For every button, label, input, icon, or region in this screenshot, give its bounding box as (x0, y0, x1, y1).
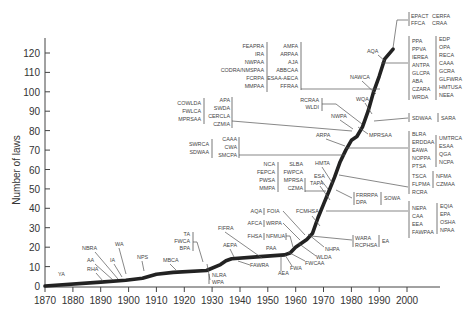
x-tick: 1920 (173, 295, 196, 306)
annotation-label: FFCA (411, 20, 425, 26)
y-tick: 30 (29, 223, 41, 234)
x-tick: 1950 (257, 295, 280, 306)
annotation-label: SDWAA (189, 149, 209, 155)
annotation-label: CERFA (432, 13, 450, 19)
annotation-label: EA (382, 238, 390, 244)
y-tick: 90 (29, 106, 41, 117)
annotation-label: AQA (251, 208, 263, 214)
annotation-label: FFRAA (280, 83, 298, 89)
annotation-label: NWPA (331, 113, 347, 119)
annotation-label: IRA (255, 51, 264, 57)
x-tick: 1870 (34, 295, 57, 306)
annotation-label: FAWRA (250, 262, 269, 268)
annotation-label: ANTPA (412, 62, 430, 68)
annotation-label: IEREA (412, 54, 429, 60)
annotation-label: OSHA (440, 219, 456, 225)
annotation-label: RCPHSA (355, 242, 378, 248)
annotation-label: FHSA (248, 233, 263, 239)
annotation-label: GLCPA (412, 70, 430, 76)
x-tick: 1900 (117, 295, 140, 306)
annotation-label: SLBA (289, 161, 303, 167)
x-tick: 1960 (285, 295, 308, 306)
annotation-label: ESA (314, 173, 325, 179)
annotation-label: CAA (412, 213, 423, 219)
annotation-label: WQA (356, 96, 369, 102)
annotation-label: ARPAA (280, 51, 298, 57)
cumulative-laws-line (45, 49, 393, 286)
annotation-label: FOIA (267, 208, 280, 214)
annotation-label: FEAPRA (242, 43, 264, 49)
annotation-label: CRAA (432, 20, 447, 26)
annotation-label: WARA (355, 235, 371, 241)
annotation-label: NLRA (212, 272, 227, 278)
annotation-label: ABA (412, 78, 423, 84)
annotation-label: FWCA (174, 238, 190, 244)
annotation-label: ERDDAA (412, 139, 435, 145)
annotation-label: FWLCA (182, 108, 201, 114)
annotation-label: GLFWRA (439, 76, 462, 82)
annotation-label: FCMHSA (296, 208, 319, 214)
annotation-label: PPA (412, 38, 423, 44)
annotation-label: MPRSAA (369, 132, 392, 138)
annotation-label: SWDA (214, 105, 231, 111)
x-tick: 1930 (201, 295, 224, 306)
annotation-label: RCRA (412, 189, 428, 195)
annotation-label: APA (220, 97, 231, 103)
annotation-label: ESAA-AECA (267, 75, 298, 81)
annotation-label: TSCA (412, 173, 427, 179)
annotation-label: WPA (212, 279, 224, 285)
y-tick: 80 (29, 126, 41, 137)
annotation-label: FRRRPA (356, 192, 378, 198)
annotation-label: WRPA (266, 220, 282, 226)
annotation-label: AEA (278, 270, 289, 276)
annotation-label: PTSA (412, 163, 426, 169)
annotation-label: NCA (264, 161, 276, 167)
annotation-label: MPRSAA (178, 116, 201, 122)
annotation-label: RECA (439, 52, 454, 58)
x-tick: 1910 (145, 295, 168, 306)
annotation-label: NWPAA (245, 59, 265, 65)
annotation-label: SOWA (384, 195, 401, 201)
annotation-label: FCRPA (246, 75, 264, 81)
annotation-label: TA (184, 231, 191, 237)
annotation-label: GCRA (439, 68, 455, 74)
annotation-label: BPA (180, 245, 191, 251)
annotation-label: CZMA (288, 185, 304, 191)
annotation-label: RCRAA (300, 97, 319, 103)
annotation-label: PWSA (259, 177, 275, 183)
annotation-label: FLPMA (412, 181, 430, 187)
annotation-label: CZMAA (436, 181, 455, 187)
annotation-label: CAAA (439, 60, 454, 66)
annotation-label: DPA (356, 199, 367, 205)
y-tick: 60 (29, 165, 41, 176)
annotation-label: AFCA (248, 220, 263, 226)
y-tick: 110 (24, 67, 40, 78)
annotation-label: NCPA (439, 159, 454, 165)
annotation-label: FEPCA (257, 169, 275, 175)
annotation-label: WA (115, 241, 124, 247)
annotation-label: IA (110, 257, 115, 263)
annotation-label: NBRA (82, 245, 97, 251)
annotation-label: NEEA (439, 92, 454, 98)
annotation-label: AJA (288, 59, 298, 65)
x-tick: 1940 (229, 295, 252, 306)
annotation-label: HMTA (315, 160, 330, 166)
x-tick: 1890 (90, 295, 113, 306)
y-axis: 0 10 20 30 40 50 60 70 80 90 100 110 120… (11, 38, 50, 292)
annotation-label: RHA (87, 266, 99, 272)
annotation-label: MBCA (163, 257, 179, 263)
y-axis-label: Number of laws (11, 135, 22, 204)
annotation-label: NPS (137, 254, 148, 260)
annotation-label: CAAA (222, 136, 237, 142)
annotation-label: HMTUSA (439, 84, 462, 90)
annotation-label: ABBCAA (276, 67, 298, 73)
annotation-label: MMPA (259, 185, 275, 191)
annotation-label: FWCAA (305, 260, 325, 266)
annotation-label: NOPPA (412, 155, 431, 161)
annotation-label: CZMIA (213, 121, 230, 127)
annotation-label: PAA (266, 245, 277, 251)
x-tick: 1880 (62, 295, 85, 306)
annotation-label: NHPA (325, 246, 340, 252)
annotation-label: TAPA (310, 180, 324, 186)
annotation-label: BLRA (412, 131, 426, 137)
